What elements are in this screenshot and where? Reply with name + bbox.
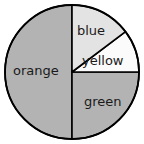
pie-label-blue: blue: [77, 24, 105, 37]
pie-label-green: green: [84, 95, 122, 108]
pie-chart-figure: orange blue yellow green: [0, 0, 144, 144]
pie-label-yellow: yellow: [82, 54, 124, 67]
pie-label-orange: orange: [13, 64, 59, 77]
